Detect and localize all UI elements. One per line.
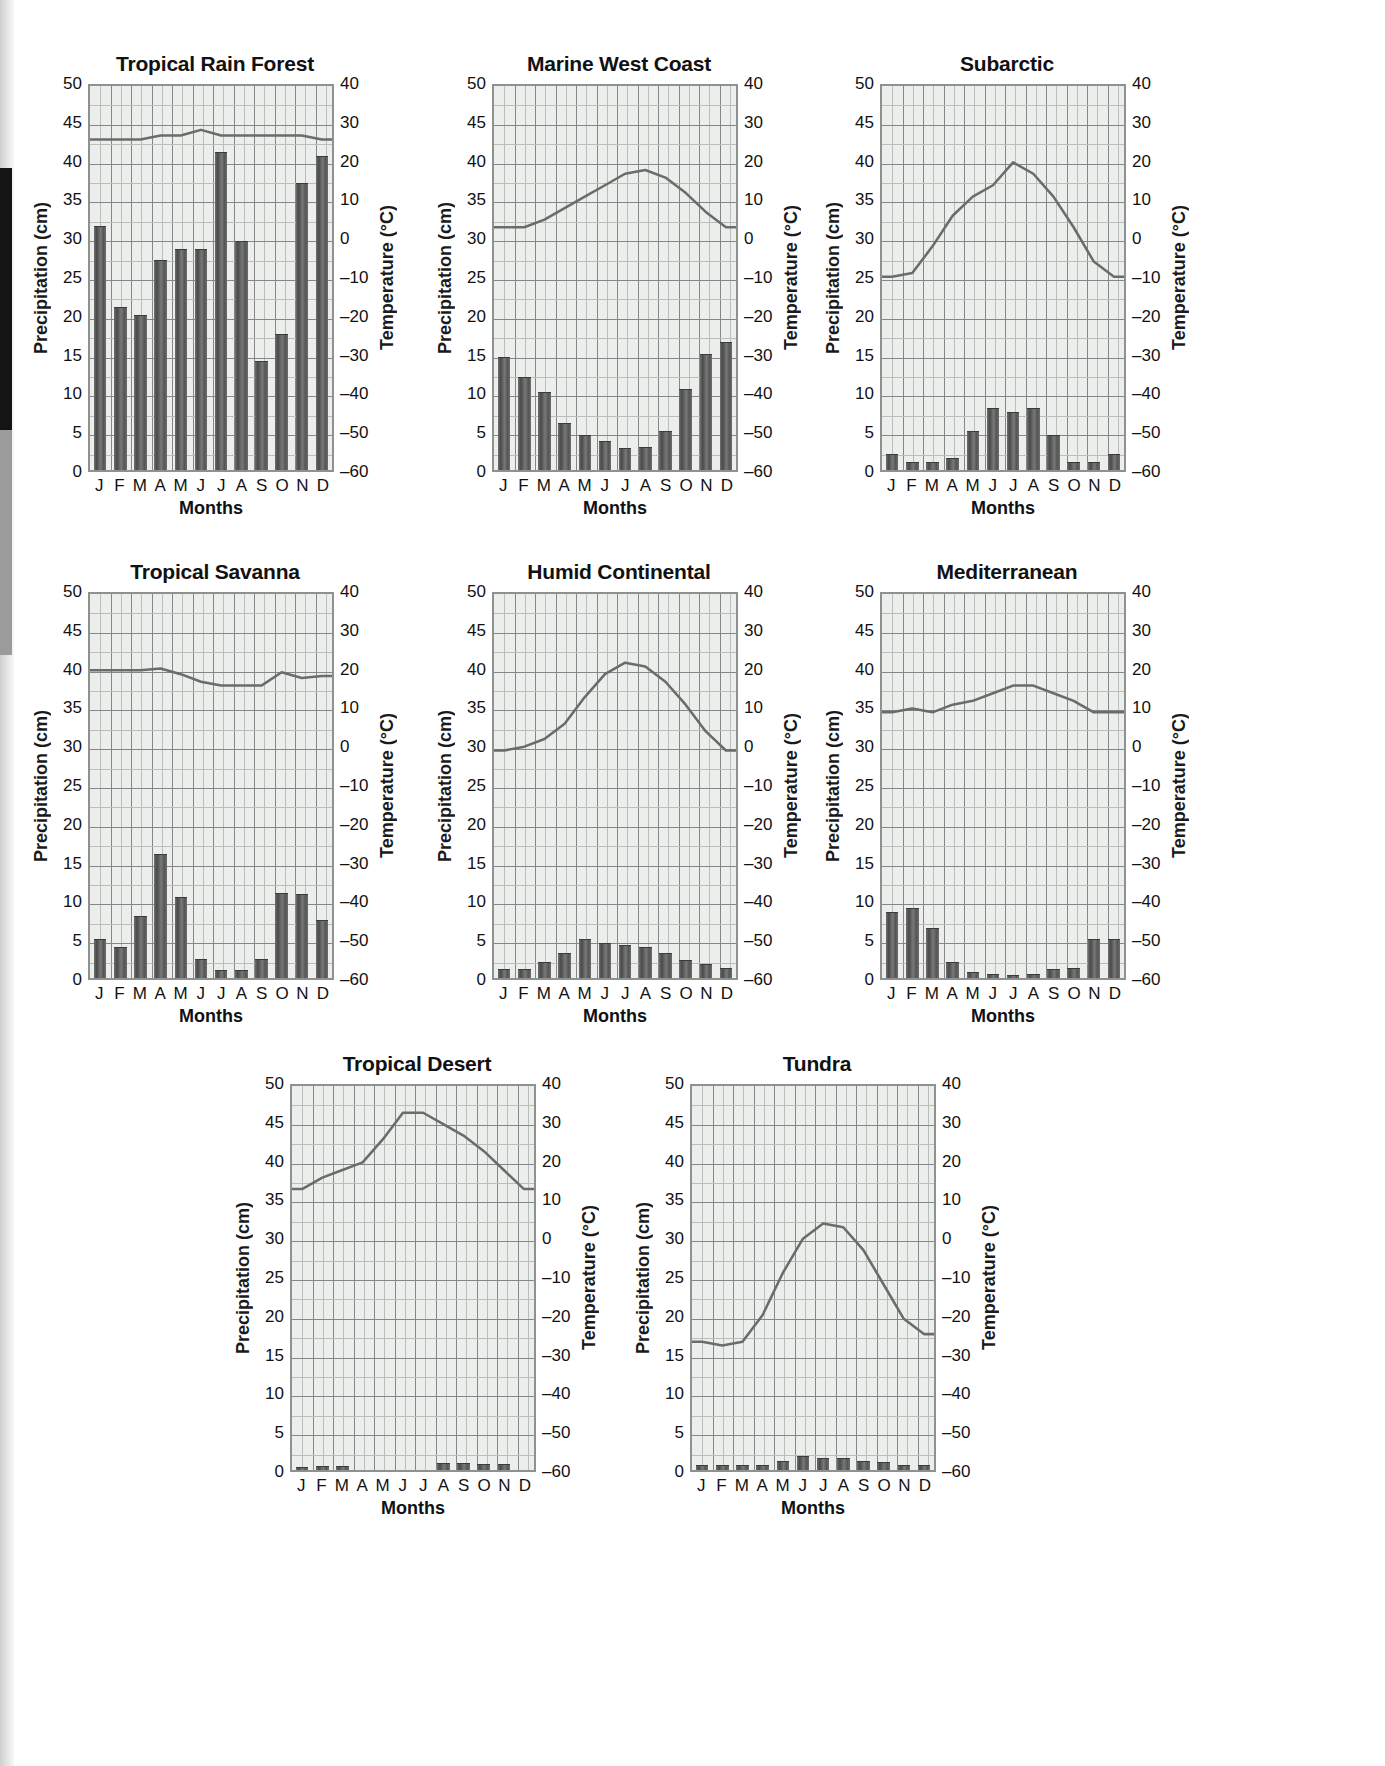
- y-tick-label: 30: [63, 229, 82, 249]
- x-tick-label: J: [413, 1476, 433, 1496]
- x-axis-group: JFMAMJJASONDMonths: [290, 1476, 536, 1519]
- x-tick-label: J: [191, 476, 211, 496]
- x-tick-label: F: [513, 476, 533, 496]
- y-axis-ticks-precipitation: 50454035302520151050: [458, 84, 492, 472]
- y-tick-label: 35: [467, 190, 486, 210]
- x-tick-label: F: [311, 1476, 331, 1496]
- temperature-line: [90, 594, 332, 976]
- y-tick-label: 45: [665, 1113, 684, 1133]
- y2-tick-label: –30: [542, 1346, 570, 1366]
- y2-tick-label: –20: [1132, 307, 1160, 327]
- y-tick-label: 30: [467, 737, 486, 757]
- x-tick-label: J: [691, 1476, 711, 1496]
- y2-tick-label: 0: [340, 229, 349, 249]
- y2-tick-label: 30: [942, 1113, 961, 1133]
- y-tick-label: 40: [63, 152, 82, 172]
- x-tick-label: F: [109, 984, 129, 1004]
- x-tick-label: J: [393, 1476, 413, 1496]
- x-tick-label: D: [1105, 476, 1125, 496]
- y-tick-label: 25: [855, 776, 874, 796]
- y2-tick-label: –10: [542, 1268, 570, 1288]
- x-tick-label: M: [130, 984, 150, 1004]
- x-tick-label: M: [170, 984, 190, 1004]
- y2-tick-label: 20: [744, 660, 763, 680]
- x-tick-label: D: [717, 476, 737, 496]
- y-axis-title-precipitation: Precipitation (cm): [432, 592, 458, 980]
- x-tick-label: F: [711, 1476, 731, 1496]
- x-tick-label: M: [922, 984, 942, 1004]
- y-axis-ticks-precipitation: 50454035302520151050: [54, 84, 88, 472]
- y2-tick-label: –30: [1132, 346, 1160, 366]
- x-axis-title: Months: [492, 1006, 738, 1027]
- y-tick-label: 5: [275, 1423, 284, 1443]
- x-tick-label: J: [89, 984, 109, 1004]
- chart-title: Tropical Rain Forest: [28, 52, 402, 76]
- y2-tick-label: –50: [1132, 931, 1160, 951]
- y2-tick-label: –50: [542, 1423, 570, 1443]
- y2-tick-label: 20: [542, 1152, 561, 1172]
- x-tick-label: A: [150, 984, 170, 1004]
- y-tick-label: 10: [467, 384, 486, 404]
- x-tick-label: A: [433, 1476, 453, 1496]
- y2-tick-label: 20: [942, 1152, 961, 1172]
- temperature-line: [292, 1086, 534, 1468]
- chart-plot-area: [492, 592, 738, 980]
- x-tick-label: J: [983, 984, 1003, 1004]
- x-tick-label: A: [231, 984, 251, 1004]
- x-tick-label: F: [901, 476, 921, 496]
- y-tick-label: 35: [855, 698, 874, 718]
- x-tick-label: N: [696, 476, 716, 496]
- y-axis-title-precipitation: Precipitation (cm): [230, 1084, 256, 1472]
- y-axis-title-precipitation: Precipitation (cm): [820, 592, 846, 980]
- x-tick-label: D: [515, 1476, 535, 1496]
- y-tick-label: 45: [467, 113, 486, 133]
- y2-tick-label: 10: [1132, 190, 1151, 210]
- y2-tick-label: –30: [340, 346, 368, 366]
- y2-axis-title-temperature: Temperature (°C): [1166, 84, 1192, 472]
- y-tick-label: 40: [665, 1152, 684, 1172]
- chart-title: Tropical Desert: [230, 1052, 604, 1076]
- y2-tick-label: 10: [744, 190, 763, 210]
- x-tick-label: A: [150, 476, 170, 496]
- chart-plot-area: [88, 592, 334, 980]
- x-tick-label: O: [272, 476, 292, 496]
- y-tick-label: 0: [865, 462, 874, 482]
- x-tick-label: M: [922, 476, 942, 496]
- y-tick-label: 30: [63, 737, 82, 757]
- y2-tick-label: 10: [744, 698, 763, 718]
- temperature-line: [494, 594, 736, 976]
- y-tick-label: 45: [467, 621, 486, 641]
- y2-tick-label: –50: [1132, 423, 1160, 443]
- x-tick-label: S: [656, 984, 676, 1004]
- x-tick-label: N: [696, 984, 716, 1004]
- y-tick-label: 25: [467, 776, 486, 796]
- x-tick-label: M: [332, 1476, 352, 1496]
- y-tick-label: 5: [73, 423, 82, 443]
- y2-tick-label: 20: [340, 152, 359, 172]
- y-tick-label: 20: [467, 307, 486, 327]
- y-axis-title-precipitation: Precipitation (cm): [820, 84, 846, 472]
- y-tick-label: 5: [865, 931, 874, 951]
- y-axis-title-precipitation: Precipitation (cm): [432, 84, 458, 472]
- y-axis-ticks-temperature: 403020100–10–20–30–40–50–60: [1126, 592, 1166, 980]
- y2-tick-label: 0: [744, 229, 753, 249]
- y-tick-label: 30: [855, 229, 874, 249]
- y-tick-label: 0: [73, 970, 82, 990]
- x-tick-label: J: [191, 984, 211, 1004]
- y2-tick-label: 20: [1132, 660, 1151, 680]
- y2-tick-label: –20: [340, 815, 368, 835]
- x-tick-label: J: [595, 476, 615, 496]
- x-tick-label: M: [732, 1476, 752, 1496]
- climate-chart-panel: Marine West CoastPrecipitation (cm)50454…: [432, 52, 806, 519]
- x-tick-label: S: [656, 476, 676, 496]
- climate-chart-panel: TundraPrecipitation (cm)5045403530252015…: [630, 1052, 1004, 1519]
- y2-tick-label: 10: [1132, 698, 1151, 718]
- y-tick-label: 15: [467, 854, 486, 874]
- y2-tick-label: –60: [744, 462, 772, 482]
- x-axis-group: JFMAMJJASONDMonths: [690, 1476, 936, 1519]
- x-axis-title: Months: [492, 498, 738, 519]
- x-tick-label: N: [894, 1476, 914, 1496]
- chart-plot-area: [88, 84, 334, 472]
- y2-tick-label: –40: [542, 1384, 570, 1404]
- y-tick-label: 15: [665, 1346, 684, 1366]
